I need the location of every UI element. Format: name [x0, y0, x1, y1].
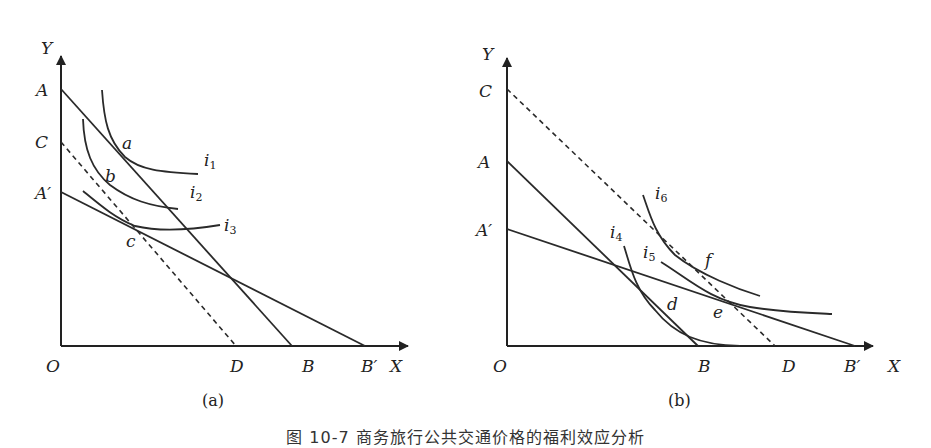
budget-line-AB-b	[507, 161, 698, 346]
y-axis-label-b: Y	[482, 44, 495, 64]
point-e: e	[713, 302, 723, 322]
intercept-B-b: B	[697, 356, 711, 376]
budget-line-CD-b	[507, 89, 775, 346]
point-a: a	[122, 133, 132, 153]
point-d: d	[667, 294, 678, 314]
x-axis-label-a: X	[388, 356, 403, 376]
intercept-C-b: C	[479, 81, 492, 101]
panel-a: Y X O A C A′ D B B′ a b c i1 i2 i3 (a)	[33, 38, 408, 410]
point-c: c	[126, 231, 136, 251]
panel-b: Y X O C A A′ B D B′ d e f i4 i5 i6 (b)	[474, 44, 901, 410]
curve-label-i2: i2	[190, 182, 202, 204]
y-axis-label-a: Y	[41, 38, 54, 58]
intercept-D-b: D	[781, 356, 796, 376]
intercept-B-prime-b: B′	[843, 356, 860, 376]
indifference-curve-i1	[102, 90, 198, 174]
intercept-A-a: A	[34, 80, 48, 100]
budget-line-AB-a	[61, 89, 292, 346]
intercept-C-a: C	[35, 132, 48, 152]
curve-label-i4: i4	[610, 222, 622, 244]
budget-line-CD-a	[61, 142, 236, 346]
indifference-curve-i5	[661, 262, 832, 314]
intercept-B-a: B	[301, 356, 315, 376]
origin-label-a: O	[46, 356, 60, 376]
curve-label-i1: i1	[204, 150, 216, 172]
budget-line-A'B'-a	[61, 192, 365, 346]
origin-label-b: O	[493, 356, 507, 376]
intercept-A-b: A	[476, 152, 490, 172]
curve-label-i3: i3	[224, 215, 236, 237]
intercept-A-prime-a: A′	[33, 183, 51, 203]
panel-label-a: (a)	[202, 391, 224, 410]
curve-label-i5: i5	[643, 242, 655, 264]
point-b: b	[105, 166, 116, 186]
panel-label-b: (b)	[668, 391, 691, 410]
figure-caption: 图 10-7 商务旅行公共交通价格的福利效应分析	[0, 424, 931, 448]
x-axis-label-b: X	[886, 356, 901, 376]
intercept-D-a: D	[229, 356, 244, 376]
point-f: f	[703, 250, 714, 270]
intercept-B-prime-a: B′	[360, 356, 377, 376]
intercept-A-prime-b: A′	[474, 220, 492, 240]
curve-label-i6: i6	[655, 183, 667, 205]
